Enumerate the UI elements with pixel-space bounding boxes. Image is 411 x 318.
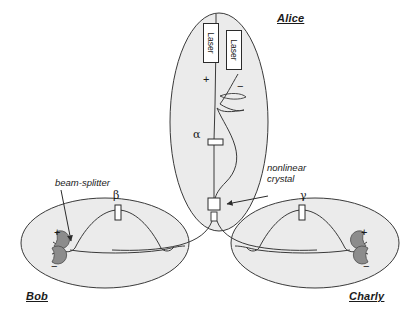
alice-phase-modulator xyxy=(208,139,223,145)
laser-box-1-label: Laser xyxy=(206,32,216,53)
alice-plus-sign: + xyxy=(203,73,209,85)
nonlinear-crystal-label: nonlinear crystal xyxy=(267,163,306,184)
laser-box-2-label: Laser xyxy=(229,39,239,60)
figure-canvas: Laser Laser Alice Bob Charly + − α nonli… xyxy=(0,0,411,318)
bob-plus-sign: + xyxy=(54,226,60,238)
charly-plus-sign: + xyxy=(361,226,367,238)
laser-box-1[interactable]: Laser xyxy=(203,23,219,63)
charly-phase-symbol-gamma: γ xyxy=(300,189,307,202)
charly-minus-sign: − xyxy=(363,260,369,272)
bob-region-ellipse xyxy=(21,198,189,288)
nonlinear-crystal-label-line1: nonlinear xyxy=(267,163,306,174)
charly-region-ellipse xyxy=(231,198,399,288)
party-label-charly: Charly xyxy=(349,290,384,302)
fiber-coupler xyxy=(211,212,217,221)
bob-minus-sign: − xyxy=(51,260,57,272)
charly-phase-modulator xyxy=(299,205,305,220)
party-label-alice: Alice xyxy=(277,12,304,24)
nonlinear-crystal-box xyxy=(208,198,220,210)
bob-phase-modulator xyxy=(115,205,121,220)
beam-splitter-label: beam-splitter xyxy=(55,178,110,189)
bob-phase-symbol-beta: β xyxy=(113,189,119,202)
alice-minus-sign: − xyxy=(237,80,243,92)
alice-phase-symbol-alpha: α xyxy=(193,128,200,141)
laser-box-2[interactable]: Laser xyxy=(226,30,242,70)
nonlinear-crystal-label-line2: crystal xyxy=(267,174,306,185)
party-label-bob: Bob xyxy=(26,290,48,302)
